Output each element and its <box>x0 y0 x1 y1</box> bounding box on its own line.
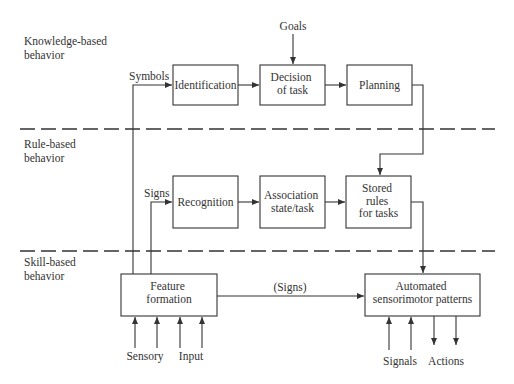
level-label-knowledge: Knowledge-based behavior <box>24 35 110 61</box>
arrow-signs-to-recognition <box>151 202 172 274</box>
signs-label: Signs <box>144 187 170 200</box>
recognition-label: Recognition <box>177 196 233 209</box>
actions-label: Actions <box>428 355 464 367</box>
input-label: Input <box>179 350 204 363</box>
identification-label: Identification <box>175 79 237 91</box>
decision-of-task-label: Decision of task <box>271 71 315 96</box>
level-label-skill: Skill-based behavior <box>24 256 79 282</box>
arrow-stored-rules-to-automated <box>411 202 423 273</box>
symbols-label: Symbols <box>129 70 170 83</box>
sensory-label: Sensory <box>126 350 163 363</box>
arrow-symbols-to-identification <box>133 85 172 274</box>
feature-formation-label: Feature formation <box>146 280 192 305</box>
skill-rule-knowledge-diagram: Knowledge-based behavior Rule-based beha… <box>0 0 514 384</box>
association-label: Association state/task <box>264 189 321 214</box>
planning-label: Planning <box>359 79 400 92</box>
signs-paren-label: (Signs) <box>273 281 306 294</box>
level-label-rule: Rule-based behavior <box>24 138 79 164</box>
signals-label: Signals <box>383 355 417 368</box>
goals-label: Goals <box>280 20 307 32</box>
